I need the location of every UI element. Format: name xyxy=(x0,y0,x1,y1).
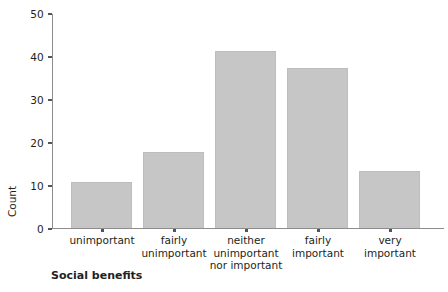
y-tick-label-20-text: 20 xyxy=(10,138,44,149)
x-tick-mark-3 xyxy=(245,229,248,232)
y-tick-label-40-text: 40 xyxy=(10,52,44,63)
x-axis-title: Social benefits xyxy=(51,269,142,282)
bar-chart: 50 40 30 20 10 0 Count unimportant fairl… xyxy=(0,0,448,292)
x-category-label-neither-line-3: nor important xyxy=(198,259,294,272)
x-category-label-very-important: very important xyxy=(342,234,438,259)
y-tick-label-0: 0 xyxy=(10,224,44,235)
y-tick-label-20: 20 xyxy=(10,138,44,149)
x-tick-mark-2 xyxy=(173,229,176,232)
bar-unimportant xyxy=(71,182,132,229)
x-tick-mark-4 xyxy=(317,229,320,232)
y-tick-label-30: 30 xyxy=(10,95,44,106)
plot-area xyxy=(52,14,444,229)
x-axis-line xyxy=(52,228,444,229)
y-axis-title: Count xyxy=(7,178,18,226)
bar-fairly-unimportant xyxy=(143,152,204,229)
x-tick-mark-5 xyxy=(389,229,392,232)
bar-neither-unimportant-nor-important xyxy=(215,51,276,229)
x-category-label-very-important-line-2: important xyxy=(342,247,438,260)
y-tick-label-0-text: 0 xyxy=(10,224,44,235)
x-category-label-very-important-line-1: very xyxy=(342,234,438,247)
y-tick-label-50: 50 xyxy=(10,9,44,20)
bar-fairly-important xyxy=(287,68,348,229)
bar-very-important xyxy=(359,171,420,229)
y-tick-label-30-text: 30 xyxy=(10,95,44,106)
y-tick-label-50-text: 50 xyxy=(10,9,44,20)
x-tick-mark-1 xyxy=(101,229,104,232)
y-tick-label-40: 40 xyxy=(10,52,44,63)
